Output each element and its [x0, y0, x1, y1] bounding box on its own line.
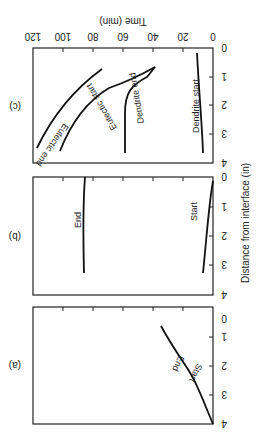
x-tick: 2 [221, 360, 227, 371]
x-tick: 3 [221, 128, 227, 139]
panel-c: 0 1 2 3 4 0 20 40 60 80 100 120 Time (mi… [9, 16, 227, 168]
y-tick: 120 [24, 31, 41, 42]
x-tick: 3 [221, 389, 227, 400]
y-tick: 20 [177, 31, 189, 42]
series-label-dendrite-start: Dendrite start [191, 78, 201, 133]
series-label-eutectic-start: Eutectic start [84, 82, 119, 132]
panel-b: 0 1 2 3 4 Start End (b) Distance from in… [9, 163, 251, 300]
x-tick: 0 [221, 171, 227, 182]
x-tick: 0 [221, 42, 227, 53]
panel-label-a: (a) [9, 360, 21, 371]
x-tick: 4 [221, 418, 227, 429]
x-tick: 4 [221, 289, 227, 300]
y-tick: 0 [210, 31, 216, 42]
x-tick: 1 [221, 71, 227, 82]
series-label-start: Start [189, 201, 199, 221]
y-tick: 100 [54, 31, 71, 42]
series-label-end: End [170, 354, 186, 373]
x-tick: 4 [221, 157, 227, 168]
series-label-end: End [73, 212, 83, 228]
x-tick: 2 [221, 230, 227, 241]
y-tick: 60 [117, 31, 129, 42]
figure-root: 0 3 2 1 4 Start End (a) 0 1 2 3 4 Start … [0, 0, 259, 433]
panel-label-b: (b) [9, 231, 21, 242]
x-tick: 3 [221, 259, 227, 270]
x-tick: 2 [221, 99, 227, 110]
y-tick: 40 [147, 31, 159, 42]
y-axis-label: Time (min) [99, 16, 146, 27]
x-axis-label: Distance from interface (in) [240, 163, 251, 283]
x-tick: 1 [221, 201, 227, 212]
panel-a: 0 3 2 1 4 Start End (a) [9, 307, 227, 429]
figure-svg: 0 3 2 1 4 Start End (a) 0 1 2 3 4 Start … [0, 0, 259, 433]
panel-label-c: (c) [9, 101, 21, 112]
x-tick: 1 [221, 331, 227, 342]
x-tick: 0 [221, 313, 227, 324]
y-tick: 80 [87, 31, 99, 42]
